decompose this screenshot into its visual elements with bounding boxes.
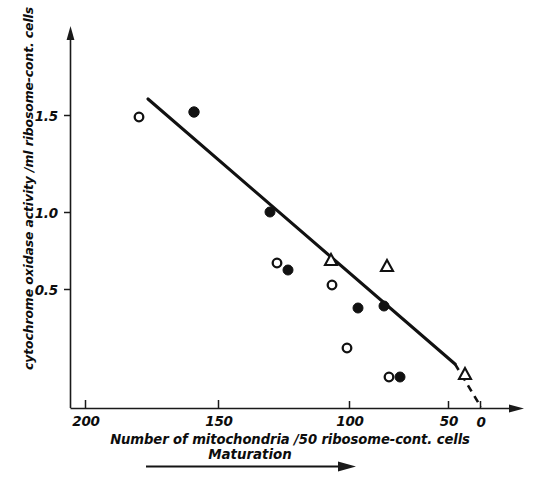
- y-axis-title: cytochrome oxidase activity /ml ribosome…: [21, 7, 36, 370]
- scatter-plot-svg: 1.5 1.0 0.5 200 150 100 50 0 cytochrome …: [0, 0, 545, 485]
- data-point-open-circle: [385, 373, 394, 382]
- regression-line-dashed-extension: [455, 364, 481, 407]
- x-axis-title: Number of mitochondria /50 ribosome-cont…: [110, 432, 470, 447]
- x-tick-label-100: 100: [336, 413, 364, 429]
- data-point-open-circle: [328, 281, 337, 290]
- data-point-filled-circle: [353, 303, 363, 313]
- series-filled-circle: [189, 107, 405, 382]
- x-tick-label-50: 50: [440, 413, 458, 429]
- series-open-circle: [135, 113, 394, 382]
- figure-container: 1.5 1.0 0.5 200 150 100 50 0 cytochrome …: [0, 0, 545, 485]
- y-tick-label-0.5: 0.5: [35, 282, 58, 298]
- data-point-open-circle: [343, 344, 352, 353]
- data-point-filled-circle: [189, 107, 199, 117]
- y-tick-labels: 1.5 1.0 0.5: [35, 108, 58, 298]
- regression-line-solid: [148, 99, 455, 364]
- maturation-annotation: Maturation: [146, 447, 356, 472]
- data-point-open-triangle: [459, 368, 471, 379]
- x-tick-label-150: 150: [205, 413, 233, 429]
- data-point-open-circle: [135, 113, 144, 122]
- x-tick-labels: 200 150 100 50 0: [72, 413, 485, 430]
- data-point-filled-circle: [379, 301, 389, 311]
- data-point-filled-circle: [283, 265, 293, 275]
- maturation-label: Maturation: [208, 447, 292, 462]
- maturation-arrow-icon: [338, 462, 356, 472]
- x-axis-arrow-icon: [509, 404, 524, 412]
- x-tick-label-200: 200: [72, 413, 100, 429]
- y-tick-label-1.5: 1.5: [35, 108, 58, 124]
- y-axis-arrow-icon: [67, 26, 75, 40]
- regression-line-group: [148, 99, 481, 407]
- data-point-filled-circle: [265, 207, 275, 217]
- data-point-filled-circle: [395, 372, 405, 382]
- axes-group: [64, 26, 524, 413]
- y-tick-label-1.0: 1.0: [35, 205, 58, 221]
- data-point-open-triangle: [381, 260, 393, 271]
- x-tick-label-0: 0: [476, 414, 485, 430]
- data-point-open-circle: [273, 259, 282, 268]
